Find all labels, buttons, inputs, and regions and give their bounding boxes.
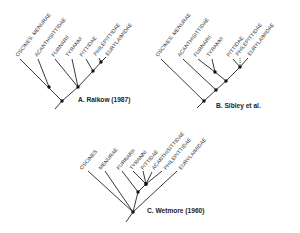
node: [99, 60, 102, 63]
panel-caption: A. Raikow (1987): [78, 96, 130, 104]
node: [76, 85, 79, 88]
node: [131, 210, 134, 213]
node: [144, 182, 148, 186]
node: [213, 70, 216, 73]
node: [91, 69, 94, 72]
taxon-label: OSCINES: [78, 148, 98, 171]
node: [47, 85, 50, 88]
tree-wetmore: OSCINES MENURAE FURNARII TYRANNI PITTIDA…: [78, 130, 207, 222]
node: [224, 79, 227, 82]
panel-caption: B. Sibley et al.: [216, 102, 261, 110]
node: [136, 190, 139, 193]
tree-raikow: OSCINES, MENURAE ACANTHISITTIDAE FURNARI…: [14, 11, 133, 109]
node: [214, 88, 217, 91]
node: [238, 65, 241, 68]
node: [60, 99, 63, 102]
tree-sibley: OSCINES, MENURAE ACANTHISITTIDAE FURNARI…: [154, 11, 275, 110]
taxon-label: OSCINES, MENURAE: [154, 11, 192, 57]
cladogram-figure: OSCINES, MENURAE ACANTHISITTIDAE FURNARI…: [0, 0, 300, 233]
panel-caption: C. Wetmore (1960): [147, 207, 204, 215]
taxon-label: EURYLAIMIDAE: [177, 136, 207, 171]
node: [202, 99, 205, 102]
taxon-label: OSCINES, MENURAE: [14, 11, 52, 57]
